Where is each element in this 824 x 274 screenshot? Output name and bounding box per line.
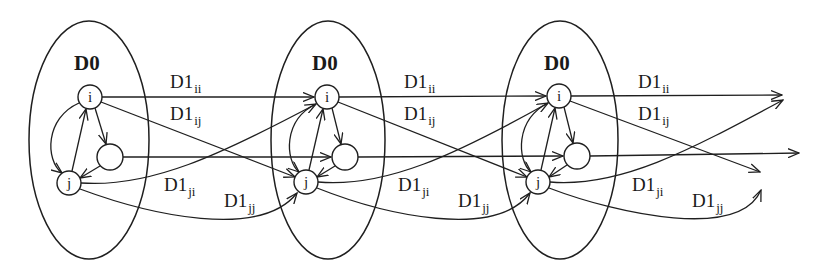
intra-edges-group-2 bbox=[289, 104, 341, 177]
node-mid-1 bbox=[97, 144, 123, 170]
group-3-nodes: i j bbox=[526, 84, 590, 194]
node-j-3-label: j bbox=[535, 174, 540, 190]
edge-label-ij-2: D1ij bbox=[404, 103, 435, 128]
edge-label-ji-3: D1ji bbox=[632, 174, 664, 199]
edge-label-ji-1: D1ji bbox=[164, 174, 196, 199]
edge-label-jj-3: D1jj bbox=[692, 190, 723, 215]
intra-edges-group-1 bbox=[51, 103, 106, 178]
group-label-1: D0 bbox=[74, 51, 100, 75]
edge-label-ii-2: D1ii bbox=[404, 71, 436, 96]
group-2-nodes: i j bbox=[294, 85, 358, 194]
edge-label-ii-1: D1ii bbox=[170, 71, 202, 96]
group-label-3: D0 bbox=[544, 51, 570, 75]
edge-label-jj-1: D1jj bbox=[224, 190, 255, 215]
node-i-3-label: i bbox=[557, 88, 561, 104]
edge-label-ii-3: D1ii bbox=[638, 71, 670, 96]
node-j-2-label: j bbox=[303, 174, 308, 190]
node-mid-2 bbox=[332, 144, 358, 170]
edge-label-ij-1: D1ij bbox=[170, 103, 201, 128]
group-label-2: D0 bbox=[312, 51, 338, 75]
node-i-2-label: i bbox=[325, 89, 329, 105]
edge-label-ji-2: D1ji bbox=[398, 174, 430, 199]
edge-label-ij-3: D1ij bbox=[638, 103, 669, 128]
group-1-nodes: i j bbox=[57, 85, 123, 195]
node-j-1-label: j bbox=[66, 175, 71, 191]
node-mid-3 bbox=[564, 143, 590, 169]
edge-label-jj-2: D1jj bbox=[458, 190, 489, 215]
node-i-1-label: i bbox=[88, 89, 92, 105]
unrolled-graph-diagram: D0 D0 D0 bbox=[0, 0, 824, 274]
